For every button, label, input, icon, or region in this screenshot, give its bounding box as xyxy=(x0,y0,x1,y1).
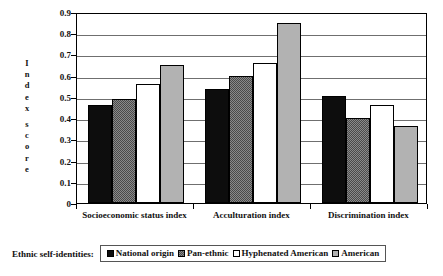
x-axis-category-label: Acculturation index xyxy=(193,210,310,222)
bar xyxy=(136,84,160,203)
legend-item-label: Hyphenated American xyxy=(242,249,329,258)
bar xyxy=(112,99,136,203)
legend-box: National originPan-ethnicHyphenated Amer… xyxy=(100,245,387,262)
y-axis-tick-label: 0.4 xyxy=(31,115,71,124)
bar xyxy=(205,89,229,203)
x-axis-category-label: Socioeconomic status index xyxy=(76,210,193,222)
legend-swatch-icon xyxy=(178,250,185,257)
legend-swatch-icon xyxy=(233,250,240,257)
bar xyxy=(229,76,253,203)
legend-item[interactable]: Pan-ethnic xyxy=(176,249,231,258)
bar xyxy=(346,118,370,203)
plot-area xyxy=(76,13,427,204)
y-axis-tick-label: 0 xyxy=(31,200,71,209)
bar xyxy=(322,96,346,203)
legend-swatch-icon xyxy=(107,250,114,257)
y-axis-tick-label: 0.2 xyxy=(31,157,71,166)
bar-chart-figure: Indexscore 0.90.80.70.60.50.40.30.20.10 … xyxy=(0,0,443,276)
legend-item[interactable]: Hyphenated American xyxy=(231,249,331,258)
y-axis-tick-label: 0.3 xyxy=(31,136,71,145)
y-axis-tick-label: 0.5 xyxy=(31,93,71,102)
bar xyxy=(370,105,394,203)
legend-item[interactable]: National origin xyxy=(105,249,176,258)
x-axis-category-label: Discrimination index xyxy=(310,210,427,222)
y-axis-tick-label: 0.1 xyxy=(31,178,71,187)
x-axis-tick-mark xyxy=(193,204,194,209)
bar xyxy=(277,23,301,203)
bar xyxy=(88,105,112,203)
legend-item-label: Pan-ethnic xyxy=(187,249,229,258)
y-axis-title-letter: x xyxy=(14,103,40,114)
gridline xyxy=(77,56,426,57)
legend: Ethnic self-identities: National originP… xyxy=(12,243,431,264)
x-axis-tick-mark xyxy=(427,204,428,209)
x-axis-tick-mark xyxy=(310,204,311,209)
legend-title: Ethnic self-identities: xyxy=(12,249,100,259)
y-axis-title-letter: d xyxy=(14,80,40,91)
bar xyxy=(253,63,277,203)
bar xyxy=(160,65,184,203)
legend-swatch-icon xyxy=(332,250,339,257)
x-axis-tick-mark xyxy=(76,204,77,209)
y-axis-tick-label: 0.6 xyxy=(31,72,71,81)
y-axis-tick-label: 0.9 xyxy=(31,9,71,18)
y-axis-tick-label: 0.7 xyxy=(31,51,71,60)
legend-item-label: American xyxy=(341,249,379,258)
gridline xyxy=(77,35,426,36)
legend-item[interactable]: American xyxy=(330,249,381,258)
bar xyxy=(394,126,418,203)
legend-item-label: National origin xyxy=(116,249,174,258)
y-axis-tick-label: 0.8 xyxy=(31,30,71,39)
